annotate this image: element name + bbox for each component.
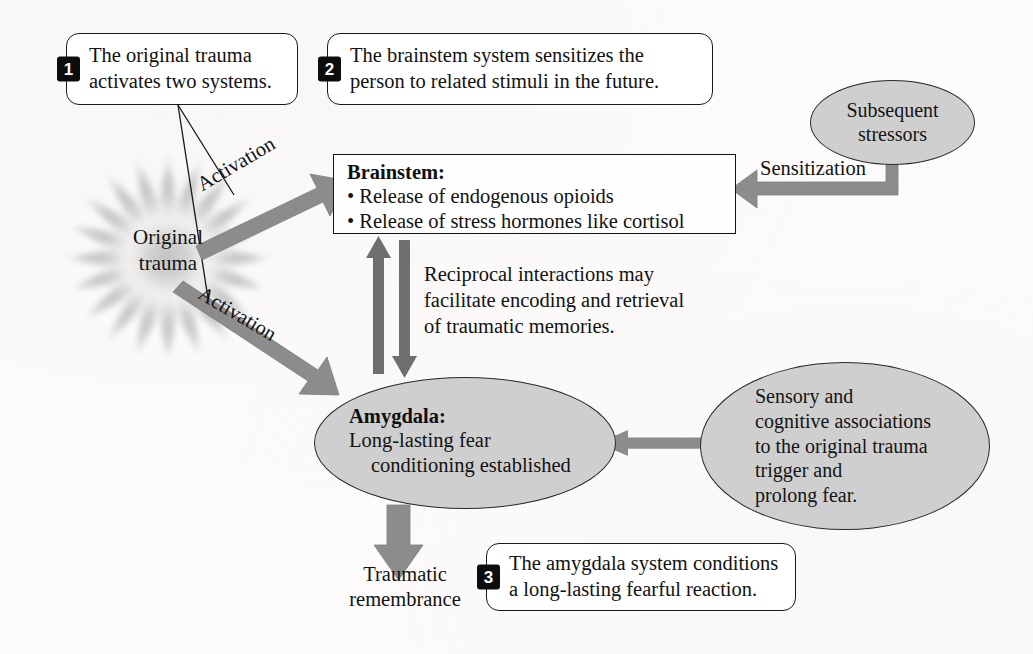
callout-text-3: The amygdala system conditions a long-la…: [487, 551, 790, 603]
brainstem-bullet-1: Release of endogenous opioids: [347, 184, 723, 209]
callout-text-1: The original trauma activates two system…: [67, 43, 284, 95]
callout-text-2: The brainstem system sensitizes the pers…: [328, 43, 671, 95]
associations-text: Sensory and cognitive associations to th…: [701, 384, 931, 508]
node-amygdala[interactable]: Amygdala: Long-lasting fear conditioning…: [314, 377, 616, 509]
brainstem-title: Brainstem:: [347, 161, 723, 184]
node-traumatic-remembrance-label: Traumatic remembrance: [310, 562, 500, 612]
amygdala-text-block: Amygdala: Long-lasting fear conditioning…: [315, 405, 571, 482]
arrow-reciprocal-up: [366, 236, 391, 374]
amygdala-line-2: conditioning established: [349, 453, 571, 478]
node-brainstem[interactable]: Brainstem: Release of endogenous opioids…: [333, 154, 736, 234]
node-original-trauma-label: Original trauma: [62, 225, 274, 276]
diagram-canvas: 1 The original trauma activates two syst…: [0, 0, 1033, 654]
node-associations[interactable]: Sensory and cognitive associations to th…: [700, 362, 990, 530]
callout-number-badge-2: 2: [318, 57, 341, 82]
edge-label-sensitization: Sensitization: [760, 157, 866, 180]
amygdala-title: Amygdala:: [349, 405, 571, 429]
callout-box-2[interactable]: 2 The brainstem system sensitizes the pe…: [327, 33, 713, 105]
arrow-reciprocal-down: [392, 240, 417, 378]
callout-box-3[interactable]: 3 The amygdala system conditions a long-…: [486, 543, 796, 611]
brainstem-bullet-list: Release of endogenous opioids Release of…: [347, 184, 723, 233]
callout-number-badge-1: 1: [57, 57, 80, 82]
callout-box-1[interactable]: 1 The original trauma activates two syst…: [66, 33, 298, 105]
edge-label-reciprocal-interactions: Reciprocal interactions may facilitate e…: [424, 262, 684, 339]
node-subsequent-stressors[interactable]: Subsequent stressors: [810, 80, 975, 165]
brainstem-bullet-2: Release of stress hormones like cortisol: [347, 209, 723, 234]
amygdala-line-1: Long-lasting fear: [349, 428, 571, 453]
